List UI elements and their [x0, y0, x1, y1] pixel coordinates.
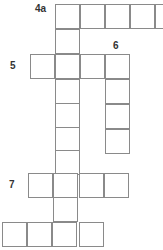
clue-number-5: 5 — [10, 60, 16, 71]
clue-number-6: 6 — [113, 40, 119, 51]
crossword-cell[interactable] — [104, 173, 129, 198]
crossword-cell[interactable] — [105, 54, 130, 79]
clue-number-4a: 4a — [35, 3, 46, 14]
crossword-cell[interactable] — [105, 4, 130, 29]
crossword-cell[interactable] — [105, 104, 130, 129]
crossword-cell[interactable] — [52, 222, 77, 247]
crossword-cell[interactable] — [53, 173, 78, 198]
clue-number-7: 7 — [9, 179, 15, 190]
crossword-cell[interactable] — [105, 79, 130, 104]
crossword-cell[interactable] — [28, 173, 53, 198]
crossword-cell[interactable] — [55, 54, 80, 79]
crossword-cell[interactable] — [130, 4, 155, 29]
crossword-cell[interactable] — [55, 79, 80, 104]
crossword-cell[interactable] — [55, 150, 80, 175]
crossword-cell[interactable] — [30, 54, 55, 79]
crossword-cell[interactable] — [80, 4, 105, 29]
crossword-cell[interactable] — [55, 29, 80, 54]
crossword-cell[interactable] — [105, 129, 130, 154]
crossword-cell[interactable] — [53, 197, 78, 222]
crossword-cell[interactable] — [55, 103, 80, 128]
crossword-cell[interactable] — [155, 4, 163, 29]
crossword-cell[interactable] — [80, 54, 105, 79]
crossword-cell[interactable] — [79, 173, 104, 198]
crossword-cell[interactable] — [55, 4, 80, 29]
crossword-cell[interactable] — [55, 127, 80, 152]
crossword-cell[interactable] — [2, 222, 27, 247]
crossword-cell[interactable] — [79, 222, 104, 247]
crossword-cell[interactable] — [27, 222, 52, 247]
